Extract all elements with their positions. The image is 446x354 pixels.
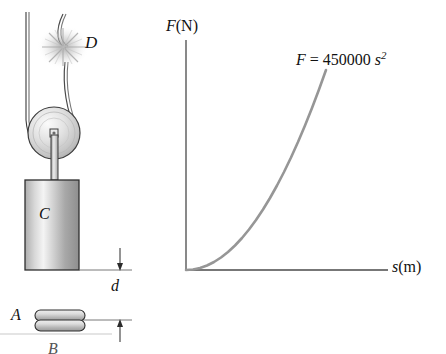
equation-exponent: 2 [381, 49, 386, 61]
spring-buffer-a [35, 310, 85, 331]
label-ground-b: B [48, 341, 58, 354]
curve-equation-annotation: F = 450000 s2 [296, 50, 386, 68]
hanger-rod [51, 135, 58, 180]
dimension-d [79, 248, 132, 342]
block-c [25, 180, 79, 270]
force-curve [186, 70, 326, 270]
label-cut-point-d: D [85, 34, 97, 51]
equation-lhs: F [296, 51, 306, 68]
equation-equals: = [310, 51, 319, 68]
y-axis-symbol: F [166, 17, 176, 34]
label-block-c: C [39, 206, 50, 222]
physics-figure: D C d A B F(N) s(m) F = 450000 s2 [0, 0, 446, 354]
spark-burst-icon [37, 25, 89, 69]
equation-coefficient: 450000 [323, 51, 371, 68]
label-spring-a: A [11, 307, 21, 323]
label-drop-distance-d: d [111, 278, 119, 294]
ground-line-b [0, 331, 112, 334]
y-axis-label: F(N) [166, 18, 198, 34]
graph-axes [186, 40, 388, 270]
x-axis-label: s(m) [392, 259, 421, 275]
y-axis-unit: (N) [176, 17, 198, 34]
x-axis-unit: (m) [398, 258, 421, 275]
